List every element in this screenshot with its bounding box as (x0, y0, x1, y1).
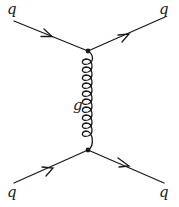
label-gluon: g (73, 98, 83, 113)
feynman-diagram: q q q q g (0, 0, 179, 207)
vertex-bottom (86, 148, 91, 153)
label-bottom-right: q (159, 185, 169, 200)
incoming-quark-bottom (14, 150, 88, 183)
gluon-propagator (82, 51, 92, 150)
label-bottom-left: q (7, 185, 17, 200)
label-top-left: q (7, 2, 17, 17)
vertex-top (86, 49, 91, 54)
diagram-canvas (0, 0, 179, 207)
label-top-right: q (159, 2, 169, 17)
